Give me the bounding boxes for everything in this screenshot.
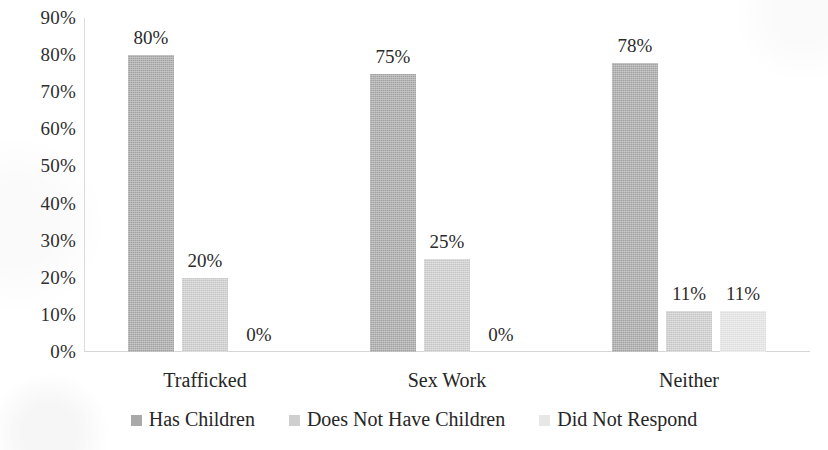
bar-value-label: 75% bbox=[358, 47, 428, 66]
legend-swatch-icon bbox=[289, 415, 300, 426]
bar-value-label: 20% bbox=[170, 251, 240, 270]
y-axis-line bbox=[84, 18, 85, 352]
plot-area: 80%20%0%75%25%0%78%11%11% bbox=[84, 18, 810, 352]
chart-legend: Has ChildrenDoes Not Have ChildrenDid No… bbox=[0, 409, 828, 429]
bar-value-label: 80% bbox=[116, 28, 186, 47]
y-axis-tick-label: 90% bbox=[4, 8, 76, 27]
y-axis-tick-label: 10% bbox=[4, 305, 76, 324]
y-axis-tick-label: 20% bbox=[4, 268, 76, 287]
legend-item: Has Children bbox=[131, 409, 255, 429]
y-axis-tick-label: 40% bbox=[4, 194, 76, 213]
bar bbox=[128, 55, 174, 352]
legend-label: Has Children bbox=[149, 409, 255, 429]
y-axis: 90%80%70%60%50%40%30%20%10%0% bbox=[0, 0, 76, 450]
bar-fill bbox=[612, 63, 658, 352]
bar-value-label: 0% bbox=[466, 325, 536, 344]
legend-item: Does Not Have Children bbox=[289, 409, 505, 429]
legend-swatch-icon bbox=[131, 415, 142, 426]
grouped-bar-chart: 90%80%70%60%50%40%30%20%10%0% 80%20%0%75… bbox=[0, 0, 828, 450]
y-axis-tick-label: 70% bbox=[4, 82, 76, 101]
x-axis-category-label: Neither bbox=[568, 370, 810, 390]
bar bbox=[182, 278, 228, 352]
y-axis-tick-label: 30% bbox=[4, 231, 76, 250]
bar bbox=[612, 63, 658, 352]
y-axis-tick-label: 0% bbox=[4, 342, 76, 361]
y-axis-tick-label: 50% bbox=[4, 156, 76, 175]
bar-value-label: 78% bbox=[600, 36, 670, 55]
bar-fill bbox=[128, 55, 174, 352]
bar bbox=[666, 311, 712, 352]
bar-value-label: 0% bbox=[224, 325, 294, 344]
bar-fill bbox=[182, 278, 228, 352]
bar bbox=[424, 259, 470, 352]
bar bbox=[720, 311, 766, 352]
legend-label: Does Not Have Children bbox=[307, 409, 505, 429]
legend-swatch-icon bbox=[539, 415, 550, 426]
bar-value-label: 11% bbox=[708, 284, 778, 303]
legend-item: Did Not Respond bbox=[539, 409, 697, 429]
bar-fill bbox=[370, 74, 416, 352]
legend-label: Did Not Respond bbox=[557, 409, 697, 429]
bar-fill bbox=[666, 311, 712, 352]
bar bbox=[370, 74, 416, 352]
y-axis-tick-label: 60% bbox=[4, 119, 76, 138]
x-axis-category-label: Sex Work bbox=[326, 370, 568, 390]
bar-fill bbox=[720, 311, 766, 352]
bar-value-label: 25% bbox=[412, 232, 482, 251]
bar-fill bbox=[424, 259, 470, 352]
y-axis-tick-label: 80% bbox=[4, 45, 76, 64]
x-axis-category-label: Trafficked bbox=[84, 370, 326, 390]
